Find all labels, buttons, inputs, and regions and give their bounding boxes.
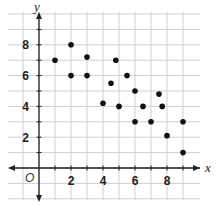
y-axis-label: y: [32, 0, 40, 14]
data-point: [124, 73, 130, 79]
x-axis-label: x: [204, 160, 211, 175]
y-tick-label: 4: [22, 100, 29, 114]
scatter-plot: 24682468 x y O: [0, 0, 216, 205]
y-tick-label: 6: [22, 69, 29, 83]
data-point: [140, 104, 146, 110]
x-tick-label: 4: [100, 174, 107, 188]
data-point: [116, 104, 122, 110]
data-point: [180, 119, 186, 125]
data-point: [108, 81, 114, 87]
data-point: [68, 73, 74, 79]
data-point: [148, 119, 154, 125]
data-point: [113, 57, 119, 63]
data-point: [164, 133, 170, 139]
data-point: [159, 104, 165, 110]
data-point: [52, 57, 58, 63]
y-tick-label: 2: [22, 131, 29, 145]
y-tick-label: 8: [22, 38, 29, 52]
data-point: [132, 88, 138, 94]
data-point: [180, 150, 186, 156]
origin-label: O: [25, 171, 34, 185]
x-tick-label: 6: [132, 174, 139, 188]
data-point: [132, 119, 138, 125]
data-point: [156, 91, 162, 97]
x-tick-label: 2: [68, 174, 75, 188]
tick-labels: 24682468: [22, 38, 170, 188]
data-point: [84, 54, 90, 60]
x-tick-label: 8: [164, 174, 171, 188]
data-point: [84, 73, 90, 79]
data-point: [100, 101, 106, 107]
data-point: [68, 42, 74, 48]
